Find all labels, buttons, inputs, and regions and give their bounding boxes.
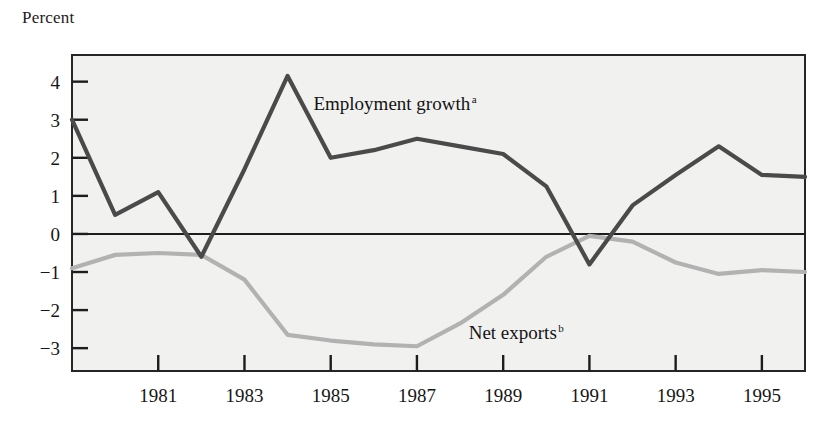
y-tick-label: 4 — [51, 72, 61, 93]
y-tick-label: 2 — [51, 148, 61, 169]
x-tick-label: 1987 — [398, 385, 436, 406]
x-tick-label: 1993 — [657, 385, 695, 406]
chart-figure: Percent 43210−1−2−3198119831985198719891… — [0, 0, 830, 430]
x-tick-label: 1983 — [225, 385, 263, 406]
series-label: Employment growth — [313, 93, 470, 114]
y-tick-label: −1 — [40, 262, 60, 283]
x-tick-label: 1989 — [484, 385, 522, 406]
series-annotation-net-exports: Net exportsb — [469, 322, 565, 343]
series-label: Net exports — [469, 322, 557, 343]
series-label-footnote: a — [472, 93, 477, 105]
y-tick-label: 0 — [51, 224, 61, 245]
series-annotation-employment-growth: Employment growtha — [313, 93, 476, 114]
x-tick-label: 1991 — [570, 385, 608, 406]
line-chart-plot: 43210−1−2−319811983198519871989199119931… — [0, 0, 830, 430]
y-tick-label: 3 — [51, 110, 61, 131]
y-tick-label: −2 — [40, 300, 60, 321]
series-label-footnote: b — [558, 322, 564, 334]
x-tick-label: 1985 — [312, 385, 350, 406]
x-tick-label: 1981 — [139, 385, 177, 406]
y-tick-label: −3 — [40, 338, 60, 359]
y-tick-label: 1 — [51, 186, 61, 207]
x-tick-label: 1995 — [743, 385, 781, 406]
